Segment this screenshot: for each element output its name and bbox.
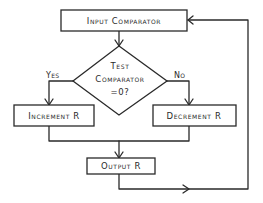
node-decrement-r: Decrement R — [153, 105, 236, 126]
node-label-line-2: Comparator — [95, 74, 144, 84]
node-label: Output R — [101, 161, 141, 171]
node-label: Input Comparator — [87, 16, 161, 26]
node-label: Decrement R — [167, 111, 222, 121]
node-label: Increment R — [28, 111, 79, 121]
edge-no: No — [167, 71, 193, 105]
flowchart-canvas: Yes No Input Comparator Test Comparator … — [0, 0, 263, 203]
node-input-comparator: Input Comparator — [61, 10, 187, 31]
edge-merge-to-output — [49, 126, 189, 158]
node-increment-r: Increment R — [14, 105, 94, 126]
edge-label-yes: Yes — [45, 71, 59, 80]
edge-input-to-test — [115, 31, 123, 46]
edge-yes: Yes — [45, 71, 73, 105]
edge-label-no: No — [174, 71, 185, 80]
node-output-r: Output R — [87, 158, 155, 174]
node-label-line-1: Test — [110, 61, 130, 71]
node-label-line-3: =0? — [111, 87, 130, 97]
